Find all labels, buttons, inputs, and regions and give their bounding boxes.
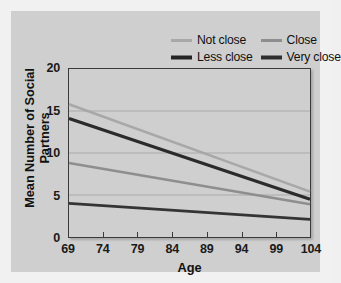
x-tick-mark [310,232,311,238]
legend-label-very-close: Very close [287,50,341,64]
legend-swatch-close-icon [261,37,282,44]
x-tick-label: 94 [235,242,249,256]
legend-swatch-less-close-icon [171,54,192,61]
series-line-close [69,163,310,204]
x-tick-label: 89 [200,242,214,256]
legend-item-less-close: Less close [171,50,253,64]
legend-label-less-close: Less close [197,50,253,64]
x-tick-label: 104 [301,242,321,256]
x-tick-label: 74 [96,242,110,256]
chart-legend: Not close Close Less close Very close [171,33,323,64]
x-tick-mark [103,232,104,238]
x-tick-mark [276,232,277,238]
x-tick-mark [172,232,173,238]
x-tick-label: 99 [270,242,284,256]
x-tick-label: 69 [61,242,75,256]
legend-item-close: Close [261,33,341,47]
legend-item-very-close: Very close [261,50,341,64]
y-tick-label: 0 [53,231,60,245]
x-tick-mark [137,232,138,238]
x-tick-mark [207,232,208,238]
y-tick-label: 5 [53,189,60,203]
plot-area [68,68,311,238]
x-tick-mark [68,232,69,238]
x-axis-title: Age [68,260,311,275]
legend-label-not-close: Not close [197,33,246,47]
legend-swatch-not-close-icon [171,37,192,44]
chart-panel: Not close Close Less close Very close [11,11,320,272]
series-line-very-close [69,203,310,219]
x-tick-label: 79 [131,242,145,256]
x-tick-mark [242,232,243,238]
data-lines [69,69,310,237]
x-axis-tick-labels: 69747984899499104 [68,238,311,260]
legend-swatch-very-close-icon [261,54,282,61]
series-line-not-close [69,104,310,191]
series-line-less-close [69,119,310,200]
y-axis-title: Mean Number of Social Partners [22,48,52,228]
legend-item-not-close: Not close [171,33,253,47]
legend-label-close: Close [287,33,317,47]
x-tick-label: 84 [165,242,179,256]
